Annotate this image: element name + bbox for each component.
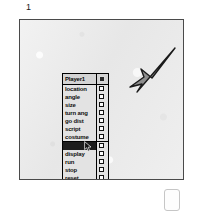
arrow-sketch-shape <box>130 48 175 92</box>
canvas-frame: Player1 location angle size <box>19 19 184 180</box>
menu-item-label: display <box>63 150 96 158</box>
menu-item-size[interactable]: size <box>63 101 108 109</box>
menu-item-display[interactable]: display <box>63 150 108 158</box>
checkbox-icon <box>99 151 104 156</box>
menu-item-checkbox[interactable] <box>96 101 108 109</box>
menu-item-checkbox[interactable] <box>96 93 108 101</box>
viewer-group-actions: erase display run stop <box>63 141 108 180</box>
checkbox-icon <box>99 118 104 123</box>
menu-item-go-dist[interactable]: go dist <box>63 117 108 125</box>
menu-item-label: run <box>63 158 96 166</box>
menu-item-label: turn ang <box>63 109 96 117</box>
menu-item-checkbox[interactable] <box>96 158 108 166</box>
menu-item-reset[interactable]: reset <box>63 174 108 180</box>
menu-item-checkbox[interactable] <box>96 109 108 117</box>
menu-item-run[interactable]: run <box>63 158 108 166</box>
menu-item-stop[interactable]: stop <box>63 166 108 174</box>
viewer-panel-header: Player1 <box>63 74 108 85</box>
menu-item-checkbox[interactable] <box>96 166 108 174</box>
menu-item-erase[interactable]: erase <box>63 142 108 150</box>
viewer-group-properties: location angle size turn ang <box>63 85 108 141</box>
checkbox-icon <box>99 94 104 99</box>
checkbox-icon <box>99 102 104 107</box>
menu-item-checkbox[interactable] <box>96 174 108 180</box>
menu-item-checkbox[interactable] <box>96 125 108 133</box>
menu-item-checkbox[interactable] <box>96 133 108 141</box>
checkbox-icon <box>99 175 104 180</box>
player-viewer-panel[interactable]: Player1 location angle size <box>62 73 109 180</box>
viewer-menu-button[interactable] <box>96 74 108 84</box>
menu-item-location[interactable]: location <box>63 85 108 93</box>
menu-item-checkbox[interactable] <box>96 150 108 158</box>
menu-item-label: angle <box>63 93 96 101</box>
menu-item-checkbox[interactable] <box>96 117 108 125</box>
arrow-sketch-object[interactable] <box>124 46 178 102</box>
checkbox-icon <box>99 110 104 115</box>
checkbox-icon <box>99 134 104 139</box>
menu-item-label: go dist <box>63 117 96 125</box>
checkbox-icon <box>99 143 104 148</box>
menu-item-label: stop <box>63 166 96 174</box>
checkbox-icon <box>99 86 104 91</box>
checkbox-icon <box>99 167 104 172</box>
menu-item-label: reset <box>63 174 96 180</box>
menu-item-script[interactable]: script <box>63 125 108 133</box>
menu-item-label: location <box>63 85 96 93</box>
checkbox-icon <box>99 126 104 131</box>
detached-tile[interactable] <box>164 189 180 211</box>
viewer-panel-title: Player1 <box>63 74 96 84</box>
menu-item-turn-ang[interactable]: turn ang <box>63 109 108 117</box>
checkbox-icon <box>99 159 104 164</box>
menu-item-angle[interactable]: angle <box>63 93 108 101</box>
menu-item-checkbox[interactable] <box>96 142 108 150</box>
menu-item-checkbox[interactable] <box>96 85 108 93</box>
menu-icon <box>99 76 105 82</box>
menu-item-costume[interactable]: costume <box>63 133 108 141</box>
menu-item-label: script <box>63 125 96 133</box>
menu-item-label: erase <box>63 142 96 150</box>
menu-item-label: size <box>63 101 96 109</box>
menu-item-label: costume <box>63 133 96 141</box>
figure-number-label: 1 <box>26 2 31 13</box>
